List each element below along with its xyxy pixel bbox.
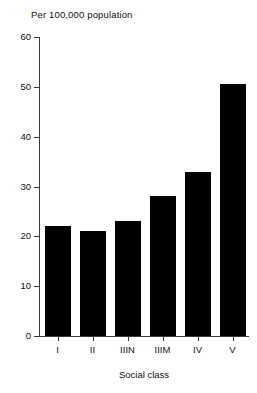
chart-title: Per 100,000 population bbox=[31, 9, 133, 20]
bar bbox=[115, 221, 141, 336]
bar bbox=[45, 226, 71, 336]
x-axis-title: Social class bbox=[39, 369, 249, 380]
x-axis-tick-label: V bbox=[213, 345, 253, 355]
x-axis-tick-mark bbox=[128, 337, 129, 341]
y-axis-tick-label: 30 bbox=[5, 182, 31, 192]
y-axis-tick-labels: 0102030405060 bbox=[0, 0, 31, 393]
bar bbox=[185, 172, 211, 336]
bar bbox=[220, 84, 246, 336]
y-axis-tick-label: 40 bbox=[5, 132, 31, 142]
x-axis-tick-label: IIIN bbox=[108, 345, 148, 355]
y-axis-tick-label: 10 bbox=[5, 281, 31, 291]
x-axis-tick-label: IIIM bbox=[143, 345, 183, 355]
x-axis-tick-label: II bbox=[73, 345, 113, 355]
x-axis-tick-label: I bbox=[38, 345, 78, 355]
plot-area bbox=[39, 37, 249, 336]
y-axis-tick-mark bbox=[34, 336, 39, 337]
x-axis-line bbox=[39, 336, 249, 337]
x-axis-tick-mark bbox=[163, 337, 164, 341]
x-axis-tick-mark bbox=[233, 337, 234, 341]
bar-chart: Per 100,000 population 0102030405060 III… bbox=[0, 0, 257, 393]
x-axis-tick-mark bbox=[93, 337, 94, 341]
x-axis-tick-label: IV bbox=[178, 345, 218, 355]
y-axis-tick-label: 50 bbox=[5, 82, 31, 92]
bar bbox=[80, 231, 106, 336]
x-axis-tick-mark bbox=[58, 337, 59, 341]
y-axis-tick-label: 60 bbox=[5, 32, 31, 42]
bar bbox=[150, 196, 176, 336]
y-axis-tick-label: 0 bbox=[5, 331, 31, 341]
y-axis-tick-label: 20 bbox=[5, 231, 31, 241]
x-axis-tick-mark bbox=[198, 337, 199, 341]
